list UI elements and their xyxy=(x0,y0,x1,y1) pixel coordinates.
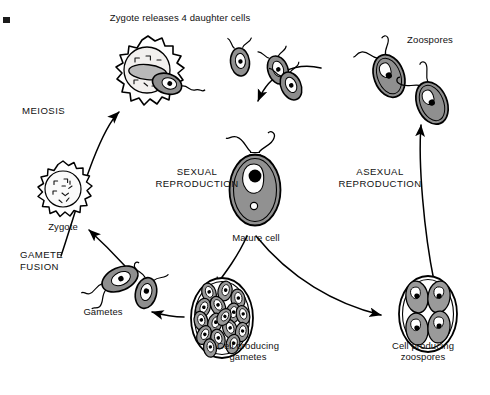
label-mature-cell: Mature cell xyxy=(216,232,296,243)
label-zygote: Zygote xyxy=(33,221,93,232)
mature-cell-nucleus xyxy=(249,170,262,183)
label-cell-producing-gametes: Cell producing gametes xyxy=(203,340,293,362)
arrow-mature-to-zoospore-cell xyxy=(256,236,381,315)
label-zoospores: Zoospores xyxy=(390,34,470,45)
label-cell-producing-zoospores: Cell producing zoospores xyxy=(378,340,468,362)
daughter-cell-1 xyxy=(227,36,255,77)
stage-zygote xyxy=(38,161,92,217)
label-asexual-reproduction: ASEXUAL REPRODUCTION xyxy=(330,166,430,189)
life-cycle-svg xyxy=(0,0,490,395)
mature-cell-flagella xyxy=(226,132,274,152)
label-gamete-fusion: GAMETE FUSION xyxy=(20,249,100,272)
emerging-cell-flagellum xyxy=(181,82,205,93)
arrow-zoospore-cell-to-zoospores xyxy=(420,125,434,281)
label-sexual-reproduction: SEXUAL REPRODUCTION xyxy=(150,166,244,189)
label-gametes: Gametes xyxy=(70,306,136,317)
mature-cell-pyrenoid xyxy=(250,202,257,209)
stage-daughter-cells xyxy=(227,36,312,105)
arrow-gametes-cell-to-gametes xyxy=(152,312,184,317)
label-meiosis: MEIOSIS xyxy=(22,105,98,117)
corner-mark xyxy=(3,17,10,23)
zygote-membrane xyxy=(45,171,81,207)
stage-zygote-releasing xyxy=(116,36,208,105)
label-top-caption: Zygote releases 4 daughter cells xyxy=(80,12,280,23)
stage-zoospores xyxy=(350,34,454,133)
diagram-canvas: Zygote releases 4 daughter cells Zoospor… xyxy=(0,0,490,395)
